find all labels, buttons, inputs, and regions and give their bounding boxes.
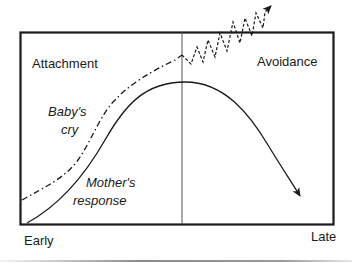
axis-start-label: Early (24, 233, 54, 248)
baby-cry-label-line1: Baby's (48, 104, 87, 119)
attachment-label: Attachment (32, 56, 98, 71)
mother-response-label-line2: response (73, 193, 126, 208)
baby-cry-label-line2: cry (61, 122, 78, 137)
avoidance-label: Avoidance (257, 54, 317, 69)
attachment-avoidance-diagram (0, 0, 352, 263)
mother-response-label-line1: Mother's (86, 175, 135, 190)
axis-end-label: Late (311, 229, 336, 244)
bottom-rule (0, 260, 352, 262)
